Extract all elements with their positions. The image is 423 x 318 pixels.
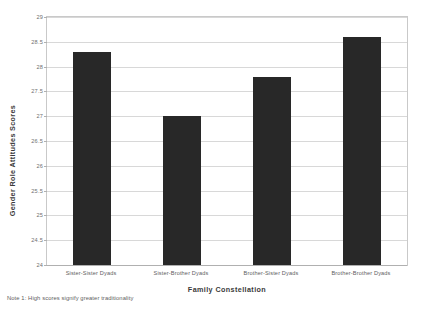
y-axis-title: Gender Role Attitudes Scores — [6, 60, 20, 260]
plot-area: 2424.52525.52626.52727.52828.529 — [46, 16, 408, 266]
y-axis-tick-label: 25.5 — [31, 188, 43, 194]
bar[interactable] — [163, 116, 201, 265]
bar-slot — [227, 17, 317, 265]
x-axis-title: Family Constellation — [46, 285, 408, 294]
chart-footnote: Note 1: High scores signify greater trad… — [7, 295, 133, 301]
y-axis-tick-mark — [44, 265, 47, 266]
bar-chart-figure: Gender Role Attitudes Scores 2424.52525.… — [0, 0, 423, 318]
bar-slot — [137, 17, 227, 265]
y-axis-tick-label: 24.5 — [31, 237, 43, 243]
x-axis-tick-label: Sister-Sister Dyads — [66, 270, 117, 276]
x-axis-tick-label: Brother-Sister Dyads — [244, 270, 299, 276]
y-axis-tick-label: 25 — [36, 212, 43, 218]
y-axis-tick-label: 29 — [36, 14, 43, 20]
y-axis-title-text: Gender Role Attitudes Scores — [9, 104, 18, 215]
y-axis-tick-label: 26 — [36, 163, 43, 169]
gridline — [47, 265, 407, 266]
x-axis-tick-label: Brother-Brother Dyads — [331, 270, 390, 276]
y-axis-tick-label: 28 — [36, 64, 43, 70]
x-axis-tick-labels: Sister-Sister DyadsSister-Brother DyadsB… — [46, 270, 408, 282]
bars-layer — [47, 17, 407, 265]
y-axis-tick-label: 26.5 — [31, 138, 43, 144]
y-axis-tick-label: 27.5 — [31, 88, 43, 94]
x-axis-tick-label: Sister-Brother Dyads — [154, 270, 209, 276]
y-axis-tick-label: 24 — [36, 262, 43, 268]
y-axis-tick-label: 27 — [36, 113, 43, 119]
bar-slot — [47, 17, 137, 265]
bar[interactable] — [253, 77, 291, 265]
bar[interactable] — [343, 37, 381, 265]
bar[interactable] — [73, 52, 111, 265]
y-axis-tick-label: 28.5 — [31, 39, 43, 45]
bar-slot — [317, 17, 407, 265]
